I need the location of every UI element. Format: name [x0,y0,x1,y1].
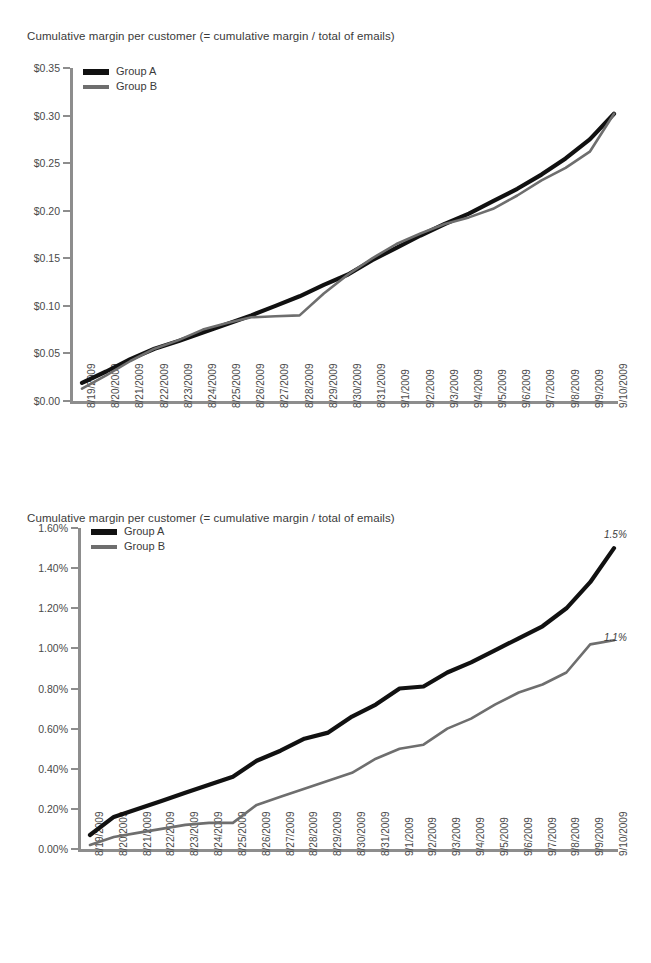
chart-bottom: Cumulative margin per customer (= cumula… [0,482,651,963]
chart-bottom-plot: 0.00%0.20%0.40%0.60%0.80%1.00%1.20%1.40%… [0,482,651,963]
series-line-group-b [82,114,614,389]
chart-top-series-svg [0,0,651,482]
series-line-group-a [82,114,614,383]
chart-bottom-series-svg [0,482,651,963]
chart-top: Cumulative margin per customer (= cumula… [0,0,651,482]
series-line-group-b [90,640,614,845]
data-label-group-a: 1.5% [604,529,627,540]
data-label-group-b: 1.1% [604,632,627,643]
chart-top-plot: $0.00$0.05$0.10$0.15$0.20$0.25$0.30$0.35… [0,0,651,482]
series-line-group-a [90,548,614,835]
